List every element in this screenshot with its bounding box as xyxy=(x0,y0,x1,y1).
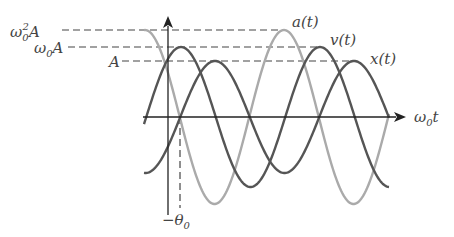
phase-label: −θ0 xyxy=(162,211,191,231)
label-v-of-t: v(t) xyxy=(330,31,356,49)
amplitude-guides xyxy=(62,30,354,208)
label-velocity-amplitude: ω0A xyxy=(34,39,64,59)
label-a-of-t: a(t) xyxy=(292,13,319,31)
shm-diagram: ω02A ω0A A a(t) v(t) x(t) ω0t −θ0 xyxy=(0,0,454,237)
label-x-of-t: x(t) xyxy=(370,50,396,68)
label-position-amplitude: A xyxy=(107,53,120,71)
x-axis-label: ω0t xyxy=(414,108,440,128)
axes xyxy=(143,16,406,215)
